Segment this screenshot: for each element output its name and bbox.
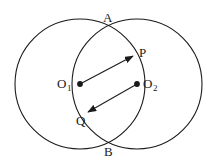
- point-label-o2-base: O: [143, 76, 152, 91]
- point-label-a: A: [103, 11, 112, 24]
- point-label-b: B: [104, 145, 113, 158]
- point-label-o2-subscript: 2: [152, 83, 157, 93]
- arrow-o2-to-q: [88, 84, 137, 112]
- geometry-figure: A P O1 O2 Q B: [0, 0, 217, 166]
- arrow-o1-to-p: [80, 56, 133, 84]
- point-label-p: P: [139, 46, 146, 59]
- center-dot-o2: [134, 81, 140, 87]
- point-label-o1-base: O: [57, 76, 66, 91]
- center-dot-o1: [77, 81, 83, 87]
- point-label-o1-subscript: 1: [66, 83, 71, 93]
- point-label-o1: O1: [57, 77, 71, 93]
- point-label-q: Q: [76, 114, 85, 127]
- point-label-o2: O2: [143, 77, 157, 93]
